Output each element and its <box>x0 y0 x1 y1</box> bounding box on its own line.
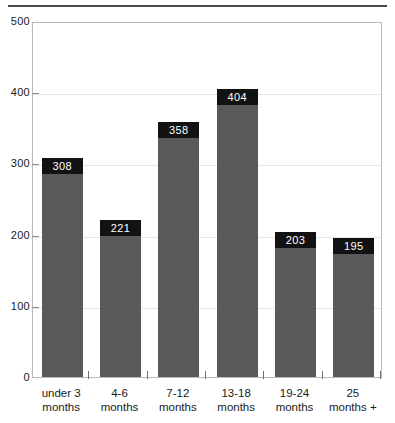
gridline <box>33 237 381 238</box>
bar-value-label: 404 <box>217 89 258 105</box>
bar-group[interactable]: 358 <box>158 122 199 377</box>
bar-group[interactable]: 203 <box>275 232 316 377</box>
bar[interactable] <box>333 238 374 377</box>
gridline <box>33 308 381 309</box>
x-axis-category-label: 19-24months <box>265 386 323 414</box>
x-axis-label-line2: months <box>32 400 90 414</box>
bar-group[interactable]: 404 <box>217 89 258 377</box>
y-axis-tick-mark <box>32 93 39 94</box>
x-axis-tick-mark <box>205 371 206 379</box>
gridline <box>33 94 381 95</box>
x-axis-label-line1: 7-12 <box>149 386 207 400</box>
bar[interactable] <box>275 232 316 377</box>
bar-value-label: 308 <box>42 158 83 174</box>
y-axis-tick-label: 0 <box>2 372 30 383</box>
top-divider-rule <box>8 5 387 7</box>
y-axis-tick-mark <box>32 236 39 237</box>
x-axis-tick-mark <box>147 371 148 379</box>
bar-group[interactable]: 308 <box>42 158 83 377</box>
x-axis-tick-mark <box>263 371 264 379</box>
x-axis-label-line2: months + <box>324 400 382 414</box>
x-axis-label-line1: 13-18 <box>207 386 265 400</box>
bar-chart-figure: 0100200300400500 308221358404203195 unde… <box>0 0 395 423</box>
x-axis-label-line1: 25 <box>324 386 382 400</box>
bar[interactable] <box>100 220 141 377</box>
y-axis-tick-label: 500 <box>2 16 30 27</box>
x-axis-label-line2: months <box>265 400 323 414</box>
y-axis-tick-label: 400 <box>2 87 30 98</box>
x-axis-tick-mark <box>322 371 323 379</box>
bar-value-label: 203 <box>275 232 316 248</box>
x-axis-category-label: 25months + <box>324 386 382 414</box>
y-axis-tick-label: 100 <box>2 301 30 312</box>
plot-area: 308221358404203195 <box>32 22 382 378</box>
gridline <box>33 165 381 166</box>
bar-group[interactable]: 195 <box>333 238 374 377</box>
x-axis-label-line1: under 3 <box>32 386 90 400</box>
x-axis-label-line2: months <box>90 400 148 414</box>
bar-value-label: 195 <box>333 238 374 254</box>
bar[interactable] <box>158 122 199 377</box>
bar-value-label: 221 <box>100 220 141 236</box>
y-axis-tick-label: 300 <box>2 158 30 169</box>
x-axis-label-line2: months <box>149 400 207 414</box>
y-axis-tick-labels: 0100200300400500 <box>0 0 30 423</box>
y-axis-tick-mark <box>32 164 39 165</box>
x-axis-category-label: under 3months <box>32 386 90 414</box>
x-axis-category-label: 7-12months <box>149 386 207 414</box>
x-axis-tick-mark <box>88 371 89 379</box>
bar[interactable] <box>42 158 83 377</box>
bar-group[interactable]: 221 <box>100 220 141 377</box>
x-axis-category-label: 13-18months <box>207 386 265 414</box>
x-axis-label-line2: months <box>207 400 265 414</box>
y-axis-tick-label: 200 <box>2 230 30 241</box>
y-axis-tick-mark <box>32 307 39 308</box>
x-axis-category-label: 4-6months <box>90 386 148 414</box>
x-axis-label-line1: 19-24 <box>265 386 323 400</box>
bar-value-label: 358 <box>158 122 199 138</box>
x-axis-tick-mark <box>380 371 381 379</box>
bar[interactable] <box>217 89 258 377</box>
x-axis-label-line1: 4-6 <box>90 386 148 400</box>
